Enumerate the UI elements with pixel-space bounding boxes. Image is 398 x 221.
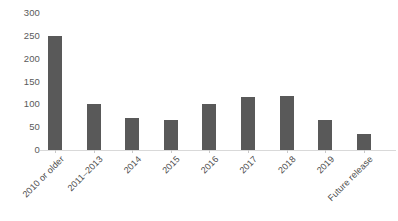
y-axis-tick-label: 150 [0, 77, 40, 87]
bar [280, 96, 294, 150]
y-axis-tick-label: 300 [0, 8, 40, 18]
x-axis-tick-mark [55, 150, 56, 153]
x-axis-tick-mark [364, 150, 365, 153]
x-axis-tick-mark [209, 150, 210, 153]
plot-area [44, 8, 394, 150]
y-axis-tick-label: 0 [0, 145, 40, 155]
y-axis-tick-label: 100 [0, 99, 40, 109]
bar [48, 36, 62, 150]
bar [241, 97, 255, 150]
y-axis-tick-label: 50 [0, 122, 40, 132]
bar-chart: 050100150200250300 2010 or older2011–201… [0, 0, 398, 221]
x-axis-tick-mark [325, 150, 326, 153]
bar [125, 118, 139, 150]
x-axis-tick-mark [287, 150, 288, 153]
x-axis-tick-mark [171, 150, 172, 153]
bar [164, 120, 178, 150]
x-axis-tick-mark [132, 150, 133, 153]
y-axis-tick-label: 250 [0, 31, 40, 41]
x-axis-tick-mark [94, 150, 95, 153]
bar [202, 104, 216, 150]
bar [87, 104, 101, 150]
y-axis-tick-label: 200 [0, 54, 40, 64]
x-axis-tick-mark [248, 150, 249, 153]
bar [318, 120, 332, 150]
bar [357, 134, 371, 150]
